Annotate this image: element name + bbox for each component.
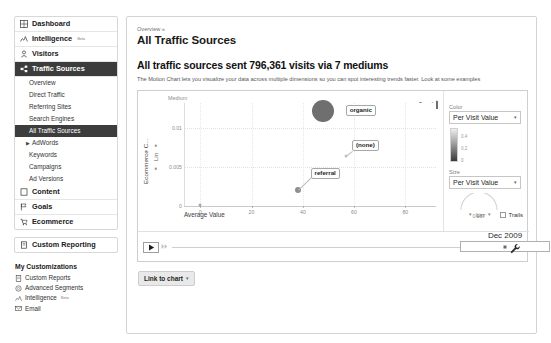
link-to-chart-label: Link to chart	[144, 275, 183, 282]
data-label-organic[interactable]: organic	[346, 105, 376, 116]
page-title: All Traffic Sources	[137, 34, 526, 46]
my-customizations-item-label: Advanced Segments	[25, 285, 83, 291]
plot-area[interactable]: 0.01 0.005 0 0 20 40 60 80	[184, 103, 436, 207]
sidebar-item-label: Content	[32, 188, 60, 195]
size-metric-value: Per Visit Value	[453, 179, 498, 186]
my-customizations-item-label: Email	[25, 306, 41, 312]
gridline-vertical	[405, 103, 406, 206]
wrench-icon[interactable]	[509, 241, 521, 253]
intelligence-icon	[15, 295, 22, 302]
size-control-label: Size	[449, 169, 521, 175]
sidebar-subitem-label: Keywords	[29, 152, 57, 158]
sidebar-item-label: Goals	[32, 203, 52, 210]
timeline-thumb[interactable]	[460, 241, 550, 252]
sidebar-item-dashboard[interactable]: Dashboard	[15, 17, 117, 32]
color-metric-value: Per Visit Value	[453, 114, 498, 121]
timeline-grip	[504, 245, 507, 248]
sidebar-item-custom-reporting[interactable]: Custom Reporting	[15, 238, 117, 252]
custom-reporting-nav: Custom Reporting	[14, 237, 118, 253]
y-tick-label: 0	[179, 203, 182, 209]
sidebar-item-content[interactable]: Content	[15, 185, 117, 200]
chevron-down-icon: ▾	[186, 276, 189, 281]
sidebar-subitem-search-engines[interactable]: Search Engines	[15, 113, 117, 125]
sidebar-subitem-label: Overview	[29, 80, 56, 86]
motion-chart-plot-region: Ecommerce C... ▾ Lin ▾ Medium	[138, 91, 445, 231]
sidebar-item-ecommerce[interactable]: Ecommerce	[15, 215, 117, 229]
sidebar-item-intelligence[interactable]: Intelligence Beta	[15, 32, 117, 47]
sidebar-subitem-overview[interactable]: Overview	[15, 77, 117, 89]
sidebar-subitem-label: Search Engines	[29, 116, 74, 122]
sidebar-subitem-adwords[interactable]: ▶ AdWords	[15, 137, 117, 149]
my-customizations-title: My Customizations	[15, 263, 118, 270]
traffic-sources-subnav: Overview Direct Traffic Referring Sites …	[15, 77, 117, 185]
content-icon	[20, 188, 28, 196]
sidebar-item-label: Visitors	[32, 50, 59, 57]
sidebar: Dashboard Intelligence Beta Visitors	[14, 16, 118, 334]
gridline-vertical	[200, 103, 201, 206]
breadcrumb[interactable]: Overview »	[137, 26, 526, 32]
color-tick-label: 0.2	[461, 145, 467, 150]
color-control-label: Color	[449, 104, 521, 110]
play-button[interactable]	[143, 242, 159, 253]
color-gradient-bar	[450, 128, 458, 162]
y-tick-label: 0.01	[172, 125, 182, 131]
my-customizations-item-label: Custom Reports	[25, 275, 71, 281]
x-tick-mark	[303, 206, 304, 208]
sidebar-subitem-label: AdWords	[32, 140, 58, 146]
sidebar-subitem-keywords[interactable]: Keywords	[15, 149, 117, 161]
my-customizations-section: My Customizations Custom Reports Advance…	[14, 263, 118, 314]
data-bubble-organic[interactable]	[312, 100, 334, 122]
x-axis-label: Average Value	[184, 211, 225, 218]
sidebar-item-visitors[interactable]: Visitors	[15, 47, 117, 62]
my-customizations-item-email[interactable]: Email	[15, 304, 118, 314]
timeline-caption: Dec 2009	[460, 231, 550, 240]
sidebar-item-label: Dashboard	[32, 20, 70, 27]
sidebar-item-traffic-sources[interactable]: Traffic Sources	[15, 62, 117, 77]
data-label-referral[interactable]: referral	[311, 168, 340, 179]
chart-side-controls: Color Per Visit Value ▾ 0.4 0.2 0 Size P…	[443, 91, 527, 231]
my-customizations-item-intelligence[interactable]: Intelligence Beta	[15, 293, 118, 303]
timeline-track[interactable]	[172, 247, 489, 248]
main-panel: Overview » All Traffic Sources All traff…	[126, 16, 537, 334]
y-axis-scale-control[interactable]: ▾ Lin ▾	[150, 109, 161, 205]
email-icon	[15, 305, 22, 312]
color-metric-select[interactable]: Per Visit Value ▾	[449, 111, 521, 124]
my-customizations-item-label: Intelligence	[25, 295, 57, 301]
chevron-down-icon: ▾	[514, 115, 517, 120]
intelligence-icon	[20, 35, 28, 43]
beta-badge: Beta	[77, 37, 85, 41]
advanced-segments-icon	[15, 285, 22, 292]
chevron-down-icon: ▾	[153, 166, 158, 171]
speed-icon[interactable]	[161, 243, 169, 251]
x-tick-mark	[405, 206, 406, 208]
chevron-down-icon: ▾	[153, 143, 158, 148]
primary-nav: Dashboard Intelligence Beta Visitors	[14, 16, 118, 230]
color-legend-ticks: 0.4 0.2 0	[460, 128, 478, 162]
sidebar-subitem-label: Referring Sites	[29, 104, 71, 110]
sidebar-subitem-all-traffic-sources[interactable]: All Traffic Sources	[15, 125, 117, 137]
playback-bar: Dec 2009	[138, 231, 529, 262]
my-customizations-item-custom-reports[interactable]: Custom Reports	[15, 273, 118, 283]
color-tick-label: 0.4	[461, 133, 467, 138]
chevron-right-icon: ▶	[26, 141, 30, 146]
sidebar-subitem-ad-versions[interactable]: Ad Versions	[15, 173, 117, 185]
chart-dimension-label: Medium	[168, 95, 187, 101]
sidebar-item-label: Custom Reporting	[32, 241, 96, 248]
sidebar-subitem-label: All Traffic Sources	[29, 128, 80, 134]
gridline-vertical	[252, 103, 253, 206]
sidebar-subitem-campaigns[interactable]: Campaigns	[15, 161, 117, 173]
sidebar-subitem-direct-traffic[interactable]: Direct Traffic	[15, 89, 117, 101]
x-tick-mark	[354, 206, 355, 208]
size-gauge[interactable]	[451, 193, 507, 213]
data-bubble-unlabeled[interactable]	[199, 204, 202, 207]
sidebar-subitem-referring-sites[interactable]: Referring Sites	[15, 101, 117, 113]
my-customizations-item-advanced-segments[interactable]: Advanced Segments	[15, 283, 118, 293]
data-label-none[interactable]: (none)	[352, 140, 379, 151]
label-leader-line	[346, 151, 353, 157]
size-metric-select[interactable]: Per Visit Value ▾	[449, 176, 521, 189]
gridline-vertical	[303, 103, 304, 206]
chevron-down-icon: ▾	[514, 180, 517, 185]
link-to-chart-button[interactable]: Link to chart ▾	[138, 271, 195, 286]
sidebar-item-goals[interactable]: Goals	[15, 200, 117, 215]
sidebar-subitem-label: Direct Traffic	[29, 92, 65, 98]
